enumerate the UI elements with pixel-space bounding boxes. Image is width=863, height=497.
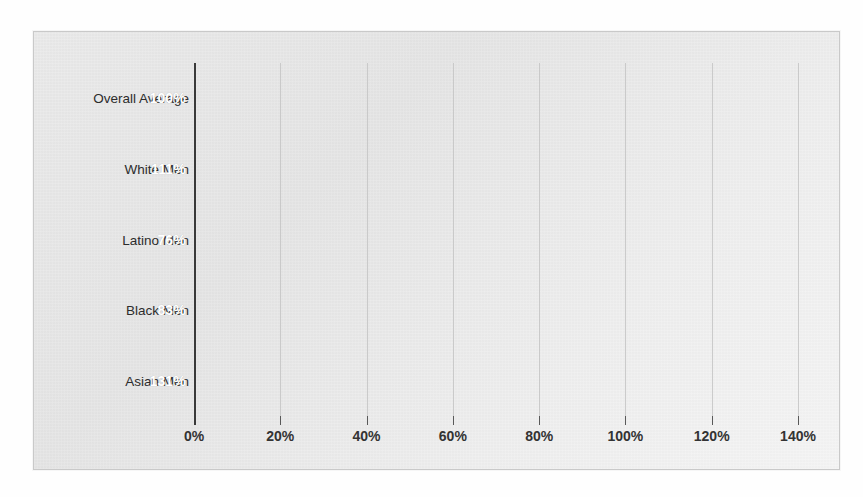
bar-value-label: 131% [149,373,186,389]
x-tick-label-100: 100% [608,428,644,444]
bar-value-label: 76% [157,232,186,248]
x-tick-label-40: 40% [353,428,381,444]
bar-value-label: 111% [151,161,186,177]
x-tick-label-140: 140% [780,428,816,444]
gridline-140 [798,63,799,416]
bar-value-label: 100% [149,90,186,106]
x-tick-mark-80 [539,416,540,425]
chart-panel: Overall AverageWhite MenLatino MenBlack … [33,31,840,470]
bar-value-label: 83% [157,302,186,318]
bar-row[interactable]: 131% [194,360,759,402]
x-tick-mark-120 [712,416,713,425]
x-tick-label-0: 0% [184,428,204,444]
x-tick-label-20: 20% [266,428,294,444]
x-tick-mark-100 [625,416,626,425]
x-tick-mark-20 [280,416,281,425]
x-tick-mark-140 [798,416,799,425]
plot-area: 100%111%76%83%131% [194,63,798,416]
bar-row[interactable]: 76% [194,219,522,261]
bar-row[interactable]: 100% [194,77,625,119]
x-tick-mark-0 [194,416,196,425]
x-tick-label-80: 80% [525,428,553,444]
x-tick-label-60: 60% [439,428,467,444]
x-tick-label-120: 120% [694,428,730,444]
bar-row[interactable]: 111% [194,148,673,190]
x-tick-mark-40 [367,416,368,425]
x-tick-mark-60 [453,416,454,425]
bar-row[interactable]: 83% [194,289,552,331]
screenshot-root: Overall AverageWhite MenLatino MenBlack … [0,0,863,497]
